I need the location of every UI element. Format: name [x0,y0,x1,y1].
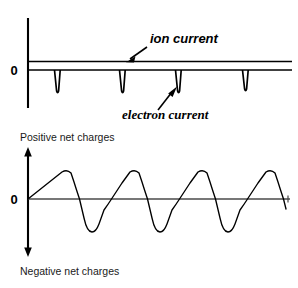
figure-background [0,0,298,288]
positive-net-charges-caption: Positive net charges [20,131,115,143]
physics-current-diagram: 0 ion current electron current Positive … [0,0,298,288]
ion-current-label: ion current [150,31,219,46]
net-charge-plot-zero-label: 0 [10,192,17,207]
current-plot-zero-label: 0 [10,63,17,78]
negative-net-charges-caption: Negative net charges [20,265,119,277]
electron-current-label: electron current [122,107,209,122]
